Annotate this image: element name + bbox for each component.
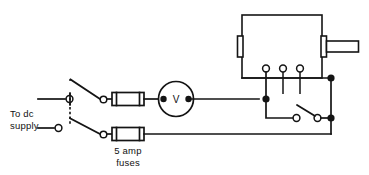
single-switch-blade[interactable] <box>297 105 315 116</box>
switch-blade-upper[interactable] <box>70 80 100 100</box>
enclosure-side-tab <box>238 36 244 57</box>
enclosure-shaft-collar <box>321 36 327 57</box>
enclosure-terminal-1[interactable] <box>263 65 270 72</box>
enclosure-terminal-2[interactable] <box>280 65 287 72</box>
double-pole-switch[interactable] <box>70 80 107 138</box>
fuse-label-line2: fuses <box>116 157 140 168</box>
single-switch-contact-left[interactable] <box>293 115 300 122</box>
wire-junction-to-switch-left <box>266 99 293 118</box>
junction-bottom-right <box>327 114 334 121</box>
switch-contact-upper[interactable] <box>100 96 107 103</box>
voltmeter: V <box>159 82 194 117</box>
enclosure-terminals <box>263 65 304 99</box>
switch-blade-lower[interactable] <box>70 118 100 134</box>
dc-supply-leads <box>38 96 73 132</box>
circuit-diagram-canvas: V <box>0 0 369 175</box>
switch-contact-lower[interactable] <box>100 131 107 138</box>
fuse-upper <box>107 93 158 106</box>
right-bus-wiring <box>242 74 335 134</box>
single-pole-switch[interactable] <box>293 105 335 122</box>
voltmeter-label: V <box>173 94 180 105</box>
supply-terminal-bottom[interactable] <box>55 125 62 132</box>
voltmeter-terminal-left <box>160 96 166 102</box>
supply-label-line1: To dc <box>10 108 34 119</box>
fuse-label-line1: 5 amp <box>114 145 141 156</box>
supply-label-line2: supply <box>10 120 39 131</box>
fuse-lower <box>107 128 331 141</box>
circuit-diagram-svg: V <box>0 0 369 175</box>
enclosure-terminal-3[interactable] <box>297 65 304 72</box>
enclosure-shaft[interactable] <box>327 41 359 52</box>
